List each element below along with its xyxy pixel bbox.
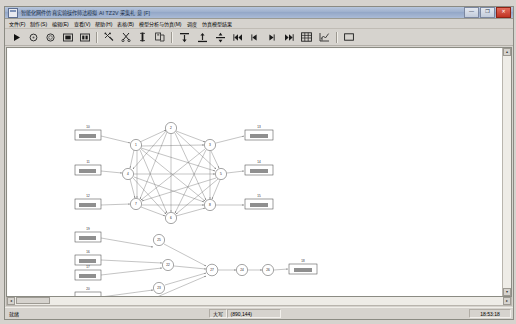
node-4[interactable]: 4 — [122, 168, 133, 179]
horizontal-scrollbar[interactable]: ◂ ▸ — [6, 297, 512, 306]
table-button[interactable] — [298, 29, 314, 45]
svg-text:8: 8 — [209, 203, 211, 207]
output-box-18[interactable]: 18 — [289, 259, 317, 274]
horizontal-scroll-thumb[interactable] — [16, 297, 50, 304]
scroll-down-arrow[interactable]: ▾ — [503, 288, 511, 296]
refresh-button[interactable] — [43, 30, 58, 45]
window-button[interactable] — [341, 30, 356, 45]
svg-text:17: 17 — [86, 265, 90, 269]
align-center-button[interactable] — [212, 29, 228, 45]
svg-text:4: 4 — [127, 172, 129, 176]
node-6[interactable]: 6 — [165, 212, 176, 223]
application-window: 智能化网件仿真实验操作师法模拟 AI TZ2V 采集礼 意 [F] — ❐ ✕ … — [4, 6, 514, 320]
svg-text:16: 16 — [86, 250, 90, 254]
pause-button[interactable] — [77, 30, 92, 45]
stop-button[interactable] — [26, 30, 41, 45]
svg-text:7: 7 — [135, 202, 137, 206]
status-ready: 就绪 — [7, 309, 22, 318]
diagram-canvas[interactable]: 10 11 12 — [6, 47, 512, 297]
client-area: 10 11 12 — [5, 46, 513, 307]
node-27[interactable]: 27 — [206, 264, 218, 276]
node-26[interactable]: 26 — [262, 264, 273, 275]
svg-text:1: 1 — [135, 143, 137, 147]
svg-text:12: 12 — [86, 194, 90, 198]
svg-text:24: 24 — [240, 268, 244, 272]
chart-button[interactable] — [316, 29, 332, 45]
toolbar-separator — [96, 32, 97, 43]
toolbar — [5, 29, 513, 46]
output-box-13[interactable]: 13 — [245, 125, 273, 140]
svg-text:6: 6 — [170, 216, 172, 220]
node-25[interactable]: 25 — [153, 234, 164, 245]
node-7[interactable]: 7 — [130, 198, 141, 209]
input-box-10[interactable]: 10 — [75, 125, 101, 140]
scroll-left-arrow[interactable]: ◂ — [7, 297, 15, 305]
measure-button[interactable] — [135, 30, 150, 45]
align-bottom-button[interactable] — [194, 29, 210, 45]
node-8[interactable]: 8 — [204, 199, 215, 210]
minimize-button[interactable]: — — [464, 7, 479, 18]
upper-network: 10 11 12 — [75, 122, 273, 223]
last-frame-button[interactable] — [281, 30, 296, 45]
node-1[interactable]: 1 — [130, 139, 141, 150]
svg-text:19: 19 — [86, 227, 90, 231]
svg-text:25: 25 — [157, 238, 161, 242]
menu-search[interactable]: 查看(V) — [74, 20, 91, 27]
svg-text:20: 20 — [86, 287, 90, 291]
lower-edges — [101, 238, 288, 297]
scroll-up-arrow[interactable]: ▴ — [503, 48, 511, 56]
node-24[interactable]: 24 — [236, 264, 247, 275]
svg-text:27: 27 — [210, 268, 214, 272]
play-button[interactable] — [9, 30, 24, 45]
node-5[interactable]: 5 — [215, 168, 226, 179]
output-box-15[interactable]: 15 — [245, 194, 273, 209]
cut-button[interactable] — [118, 30, 133, 45]
first-frame-button[interactable] — [230, 30, 245, 45]
close-button[interactable]: ✕ — [496, 7, 511, 18]
copy-button[interactable] — [152, 30, 167, 45]
svg-text:18: 18 — [301, 259, 305, 263]
svg-text:2: 2 — [170, 126, 172, 130]
input-box-19[interactable]: 19 — [75, 227, 101, 242]
node-22[interactable]: 22 — [162, 259, 173, 270]
svg-text:10: 10 — [86, 125, 90, 129]
scroll-right-arrow[interactable]: ▸ — [503, 297, 511, 305]
input-box-12[interactable]: 12 — [75, 194, 101, 209]
menu-view[interactable]: 编辑(E) — [52, 20, 69, 27]
maximize-button[interactable]: ❐ — [480, 7, 495, 18]
node-23[interactable]: 23 — [153, 282, 164, 293]
menu-file[interactable]: 文件(F) — [9, 20, 25, 27]
status-time: 18:53:18 — [469, 309, 511, 318]
next-frame-button[interactable] — [264, 30, 279, 45]
menu-help[interactable]: 仿真模型结果 — [202, 20, 232, 27]
status-bar: 就绪 大写 (890,144) 18:53:18 — [5, 307, 513, 319]
lower-network: 19 16 17 20 — [75, 227, 317, 297]
input-box-20[interactable]: 20 — [75, 287, 101, 297]
svg-text:13: 13 — [257, 125, 261, 129]
menu-edit[interactable]: 制作(S) — [30, 20, 47, 27]
svg-text:11: 11 — [86, 160, 89, 164]
input-box-11[interactable]: 11 — [75, 160, 101, 175]
vertical-scrollbar[interactable]: ▴ ▾ — [502, 48, 511, 296]
menu-window[interactable]: 调度 — [187, 20, 197, 27]
menu-bar: 文件(F) 制作(S) 编辑(E) 查看(V) 帮助(H) 表格(B) 模型分析… — [5, 19, 513, 29]
menu-model[interactable]: 帮助(H) — [95, 20, 112, 27]
stop-square-button[interactable] — [60, 30, 75, 45]
network-diagram: 10 11 12 — [7, 48, 505, 297]
toolbar-separator — [336, 32, 337, 43]
svg-text:23: 23 — [157, 286, 161, 290]
svg-text:26: 26 — [266, 268, 270, 272]
node-tool-button[interactable] — [101, 30, 116, 45]
input-box-17[interactable]: 17 — [75, 265, 101, 280]
menu-tools[interactable]: 模型分析与仿真(M) — [139, 20, 182, 27]
menu-run[interactable]: 表格(B) — [117, 20, 134, 27]
output-box-14[interactable]: 14 — [245, 160, 273, 175]
svg-text:15: 15 — [257, 194, 261, 198]
prev-frame-button[interactable] — [247, 30, 262, 45]
window-controls: — ❐ ✕ — [464, 7, 511, 18]
svg-text:22: 22 — [166, 263, 170, 267]
align-top-button[interactable] — [176, 29, 192, 45]
node-3[interactable]: 3 — [204, 139, 215, 150]
node-2[interactable]: 2 — [165, 122, 176, 133]
input-box-16[interactable]: 16 — [75, 250, 101, 265]
